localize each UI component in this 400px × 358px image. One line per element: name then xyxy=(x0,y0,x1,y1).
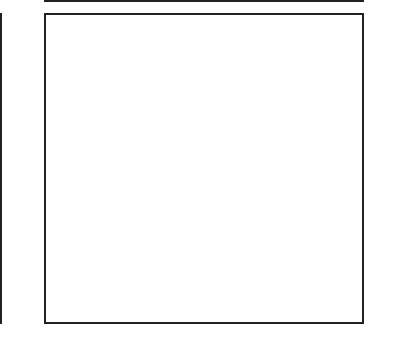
heavy-horizontal-divider xyxy=(44,0,364,2)
chart-grid xyxy=(44,13,364,324)
heavy-vertical-divider xyxy=(0,13,2,324)
